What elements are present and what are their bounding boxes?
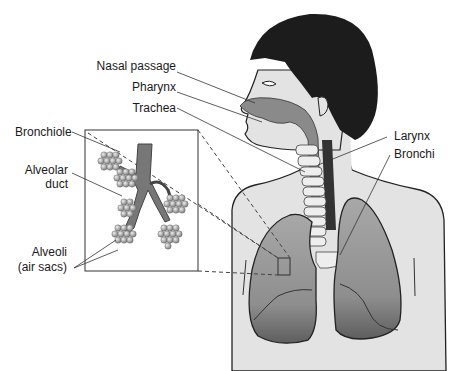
- label-trachea: Trachea: [116, 101, 176, 115]
- label-larynx: Larynx: [394, 129, 430, 143]
- label-alveolar-duct-1: Alveolar: [10, 163, 68, 177]
- respiratory-diagram: [0, 0, 458, 371]
- label-bronchiole: Bronchiole: [15, 125, 72, 139]
- label-bronchi: Bronchi: [394, 147, 435, 161]
- label-alveolar-duct-2: duct: [10, 177, 68, 191]
- label-nasal-passage: Nasal passage: [96, 59, 176, 73]
- label-pharynx: Pharynx: [116, 80, 176, 94]
- label-alveoli-2: (air sacs): [5, 260, 67, 274]
- label-alveoli-1: Alveoli: [5, 245, 67, 259]
